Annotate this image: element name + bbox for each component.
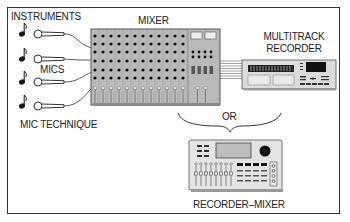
- label-mic-technique: MIC TECHNIQUE: [20, 119, 97, 130]
- label-or: OR: [222, 111, 237, 122]
- label-multitrack-recorder-line2: RECORDER: [258, 43, 330, 54]
- label-recorder-mixer: RECORDER–MIXER: [193, 199, 285, 210]
- label-multitrack-recorder-line1: MULTITRACK: [258, 31, 330, 42]
- label-instruments: INSTRUMENTS: [11, 11, 81, 22]
- multitrack-recorder: [242, 60, 336, 91]
- mixer: [91, 29, 220, 106]
- mic-cables: [64, 34, 92, 106]
- music-note-icon: [19, 23, 27, 109]
- label-mics: MICS: [40, 64, 64, 75]
- recorder-mixer: [189, 140, 283, 192]
- label-mixer: MIXER: [138, 15, 169, 26]
